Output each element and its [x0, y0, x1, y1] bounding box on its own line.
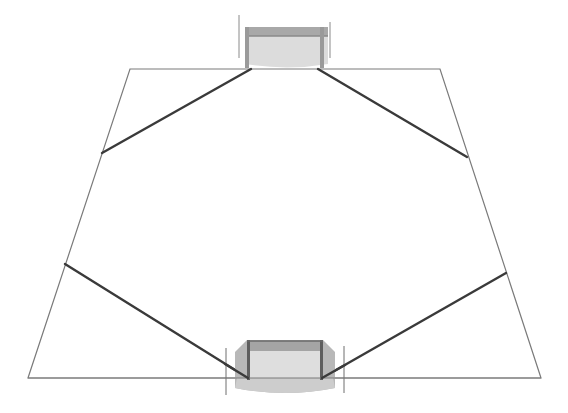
bottom-goal-right-post [320, 340, 323, 380]
bottom-goal [226, 340, 344, 395]
pitch-diagram [0, 0, 568, 413]
bottom-goal-crossbar [249, 341, 321, 351]
top-goal-crossbar [245, 27, 328, 36]
run-lines [65, 69, 506, 378]
top-goal-left-post [245, 27, 249, 68]
bottom-right-run-line [322, 273, 506, 378]
top-goal-right-post [320, 27, 324, 68]
top-goal [239, 15, 330, 68]
bottom-goal-left-post [247, 340, 250, 380]
diagram-canvas [0, 0, 568, 413]
bottom-left-run-line [65, 264, 248, 378]
top-left-run-line [102, 69, 251, 153]
pitch-outline [28, 69, 541, 378]
bottom-goal-ground [235, 378, 335, 393]
